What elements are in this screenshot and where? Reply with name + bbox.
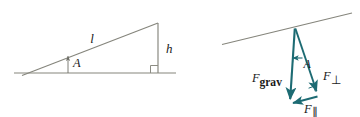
label-f-parallel: F ∥ xyxy=(303,102,318,117)
angle-arc xyxy=(61,61,69,73)
label-angle-left: A xyxy=(72,56,81,70)
physics-figure: l h A A F grav F ⊥ F ∥ xyxy=(0,0,360,117)
left-diagram-group xyxy=(14,23,176,76)
label-f-parallel-subscript: ∥ xyxy=(312,106,318,117)
label-f-perp: F ⊥ xyxy=(322,69,341,86)
label-height: h xyxy=(166,41,173,56)
label-f-grav: F grav xyxy=(251,71,282,89)
f-grav-vector xyxy=(290,29,295,100)
incline-surface-line xyxy=(222,13,352,45)
label-hypotenuse: l xyxy=(90,31,94,46)
right-angle-marker-forces xyxy=(309,86,316,91)
label-f-perp-subscript: ⊥ xyxy=(331,74,341,86)
figure-canvas: l h A A F grav F ⊥ F ∥ xyxy=(0,0,360,117)
label-f-grav-subscript: grav xyxy=(260,76,283,89)
right-angle-marker xyxy=(151,66,159,74)
right-diagram-group xyxy=(222,13,352,103)
label-angle-right: A xyxy=(303,57,312,71)
